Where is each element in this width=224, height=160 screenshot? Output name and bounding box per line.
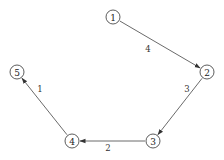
node-1: 1: [106, 10, 120, 24]
nodes-layer: 12345: [10, 10, 214, 148]
edge-label-1-to-2: 4: [145, 44, 150, 54]
edge-label-2-to-3: 3: [184, 84, 189, 94]
edge-1-to-2: [120, 21, 200, 68]
node-label: 5: [14, 68, 20, 78]
edge-2-to-3: [158, 78, 202, 134]
node-label: 3: [150, 137, 156, 147]
edge-4-to-5: [22, 78, 67, 134]
edge-label-4-to-5: 1: [37, 84, 42, 94]
node-4: 4: [65, 134, 79, 148]
graph-diagram: 4321 12345: [0, 0, 224, 160]
node-3: 3: [146, 134, 160, 148]
node-label: 4: [69, 137, 75, 147]
edges-layer: 4321: [22, 21, 202, 153]
node-5: 5: [10, 65, 24, 79]
edge-label-3-to-4: 2: [105, 143, 110, 153]
node-label: 1: [110, 13, 116, 23]
node-label: 2: [204, 68, 210, 78]
node-2: 2: [200, 65, 214, 79]
